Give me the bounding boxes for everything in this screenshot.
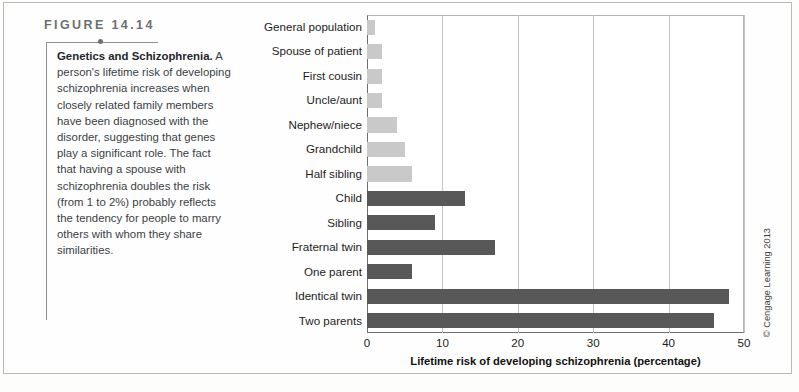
- bar: [367, 313, 714, 328]
- gridline-50: [744, 15, 745, 333]
- bar-row: [367, 113, 397, 137]
- bar: [367, 264, 412, 279]
- bar-chart: General populationSpouse of patientFirst…: [367, 15, 744, 333]
- bar-row: [367, 39, 382, 63]
- bar-row: [367, 186, 465, 210]
- bar-row: [367, 64, 382, 88]
- figure-page: FIGURE 14.14 Genetics and Schizophrenia.…: [0, 0, 799, 392]
- category-label: Child: [162, 186, 362, 210]
- bar-row: [367, 15, 375, 39]
- bar: [367, 142, 405, 157]
- caption-rule-vertical: [46, 42, 47, 320]
- bar-row: [367, 235, 495, 259]
- category-label: First cousin: [162, 64, 362, 88]
- copyright-notice: © Cengage Learning 2013: [762, 228, 772, 337]
- category-label: Spouse of patient: [162, 39, 362, 63]
- bar-row: [367, 309, 714, 333]
- bar: [367, 191, 465, 206]
- x-tick-50: 50: [738, 336, 751, 349]
- category-label: Sibling: [162, 211, 362, 235]
- bar: [367, 117, 397, 132]
- x-axis-title: Lifetime risk of developing schizophreni…: [367, 355, 744, 367]
- x-tick-0: 0: [364, 336, 370, 349]
- x-tick-20: 20: [511, 336, 524, 349]
- category-label: Half sibling: [162, 162, 362, 186]
- caption-rule-dot-icon: [98, 39, 103, 44]
- bar-row: [367, 88, 382, 112]
- bar: [367, 93, 382, 108]
- category-label: Nephew/niece: [162, 113, 362, 137]
- x-tick-10: 10: [436, 336, 449, 349]
- category-label: One parent: [162, 260, 362, 284]
- bar: [367, 215, 435, 230]
- x-tick-30: 30: [587, 336, 600, 349]
- bar: [367, 289, 729, 304]
- bar-row: [367, 162, 412, 186]
- figure-number-label: FIGURE 14.14: [44, 18, 155, 32]
- x-tick-40: 40: [662, 336, 675, 349]
- bar: [367, 69, 382, 84]
- bar: [367, 44, 382, 59]
- category-label: Fraternal twin: [162, 235, 362, 259]
- bar-row: [367, 211, 435, 235]
- category-label: General population: [162, 15, 362, 39]
- category-label: Uncle/aunt: [162, 88, 362, 112]
- category-label: Identical twin: [162, 284, 362, 308]
- bar-row: [367, 260, 412, 284]
- category-label: Two parents: [162, 309, 362, 333]
- bar: [367, 166, 412, 181]
- bar: [367, 20, 375, 35]
- category-label: Grandchild: [162, 137, 362, 161]
- bar: [367, 240, 495, 255]
- bar-row: [367, 284, 729, 308]
- bar-row: [367, 137, 405, 161]
